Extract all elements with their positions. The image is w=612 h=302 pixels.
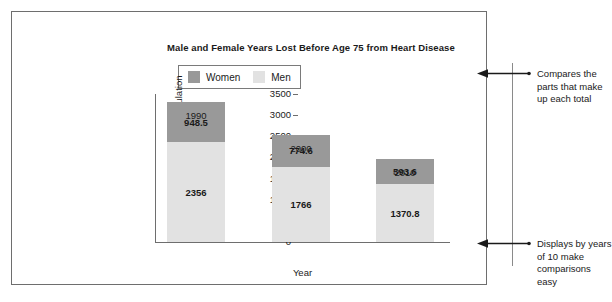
left-arrow-icon (477, 239, 533, 248)
y-tick-label: 3500 (270, 88, 291, 99)
bar-group[interactable]: 593.61370.82010 (376, 159, 434, 242)
callout-text-bottom: Displays by years of 10 make comparisons… (537, 238, 612, 288)
x-tick-label: 1990 (167, 110, 225, 121)
legend-label-men: Men (271, 72, 290, 83)
bar-group[interactable]: 948.523561990 (167, 102, 225, 242)
x-tick-label: 2000 (272, 143, 330, 154)
y-tick-mark (293, 94, 298, 95)
x-tick-label: 2010 (376, 167, 434, 178)
bar-segment-men[interactable]: 2356 (167, 142, 225, 242)
chart-legend: Women Men (178, 65, 301, 89)
legend-entry-women: Women (188, 71, 240, 83)
bar-value-label: 2356 (185, 187, 206, 198)
bar-group[interactable]: 774.617662000 (272, 135, 330, 242)
callout-connector-line (512, 63, 513, 266)
y-tick-mark (293, 242, 298, 243)
legend-swatch-men (253, 71, 265, 83)
bar-value-label: 1370.8 (390, 208, 419, 219)
x-axis-title: Year (155, 267, 450, 278)
y-tick-label: 3000 (270, 109, 291, 120)
bar-segment-women[interactable]: 948.5 (167, 102, 225, 142)
y-tick-mark (293, 115, 298, 116)
plot-area: 0500100015002000250030003500 Rate per 10… (155, 94, 448, 242)
chart-figure-panel: Male and Female Years Lost Before Age 75… (11, 11, 487, 285)
bar-value-label: 1766 (290, 199, 311, 210)
bar-segment-men[interactable]: 1370.8 (376, 184, 434, 242)
legend-swatch-women (188, 71, 200, 83)
chart-title: Male and Female Years Lost Before Age 75… (167, 42, 455, 53)
legend-label-women: Women (206, 72, 240, 83)
x-axis-line (155, 242, 450, 243)
legend-entry-men: Men (253, 71, 290, 83)
bar-segment-men[interactable]: 1766 (272, 167, 330, 242)
left-arrow-icon (477, 69, 533, 78)
callout-text-top: Compares the parts that make up each tot… (537, 68, 612, 106)
